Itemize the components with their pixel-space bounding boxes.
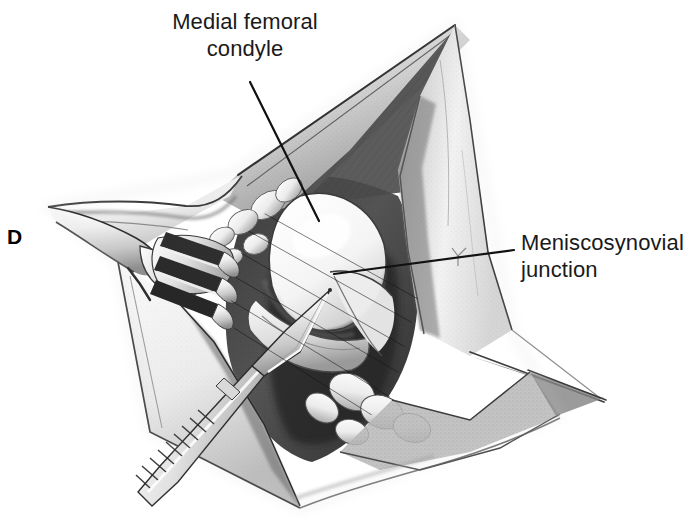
label-meniscosynovial-line1: Meniscosynovial <box>521 230 684 255</box>
label-condyle-line2: condyle <box>168 35 322 62</box>
figure-panel: Medial femoral condyle Meniscosynovial j… <box>0 0 684 524</box>
label-meniscosynovial-line2: junction <box>521 256 684 283</box>
label-medial-femoral-condyle: Medial femoral condyle <box>168 8 322 62</box>
panel-letter: D <box>7 226 22 247</box>
label-condyle-line1: Medial femoral <box>172 9 318 34</box>
label-meniscosynovial-junction: Meniscosynovial junction <box>521 229 684 283</box>
